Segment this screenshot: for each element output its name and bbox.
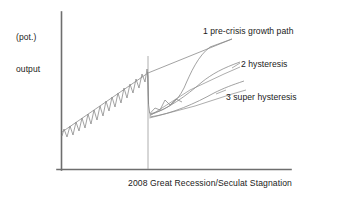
leader-line-super-hysteresis: [216, 90, 226, 94]
potential-output-diagram: (pot.) output 2008 Great Recession/Secul…: [0, 0, 337, 197]
curve-label-hysteresis: 2 hysteresis: [241, 59, 287, 69]
curve-label-super-hysteresis: 3 super hysteresis: [226, 92, 297, 102]
business-cycle-wave: [62, 69, 149, 137]
x-axis-caption: 2008 Great Recession/Seculat Stagnation: [128, 178, 292, 189]
y-axis-label-line-2: output: [16, 64, 40, 75]
scenario-1-pre-crisis-growth-path-curve: [150, 39, 233, 114]
y-axis-label-line-1: (pot.): [16, 32, 40, 43]
curve-label-pre-crisis-growth-path: 1 pre-crisis growth path: [203, 26, 294, 36]
y-axis-label: (pot.) output: [16, 11, 40, 95]
